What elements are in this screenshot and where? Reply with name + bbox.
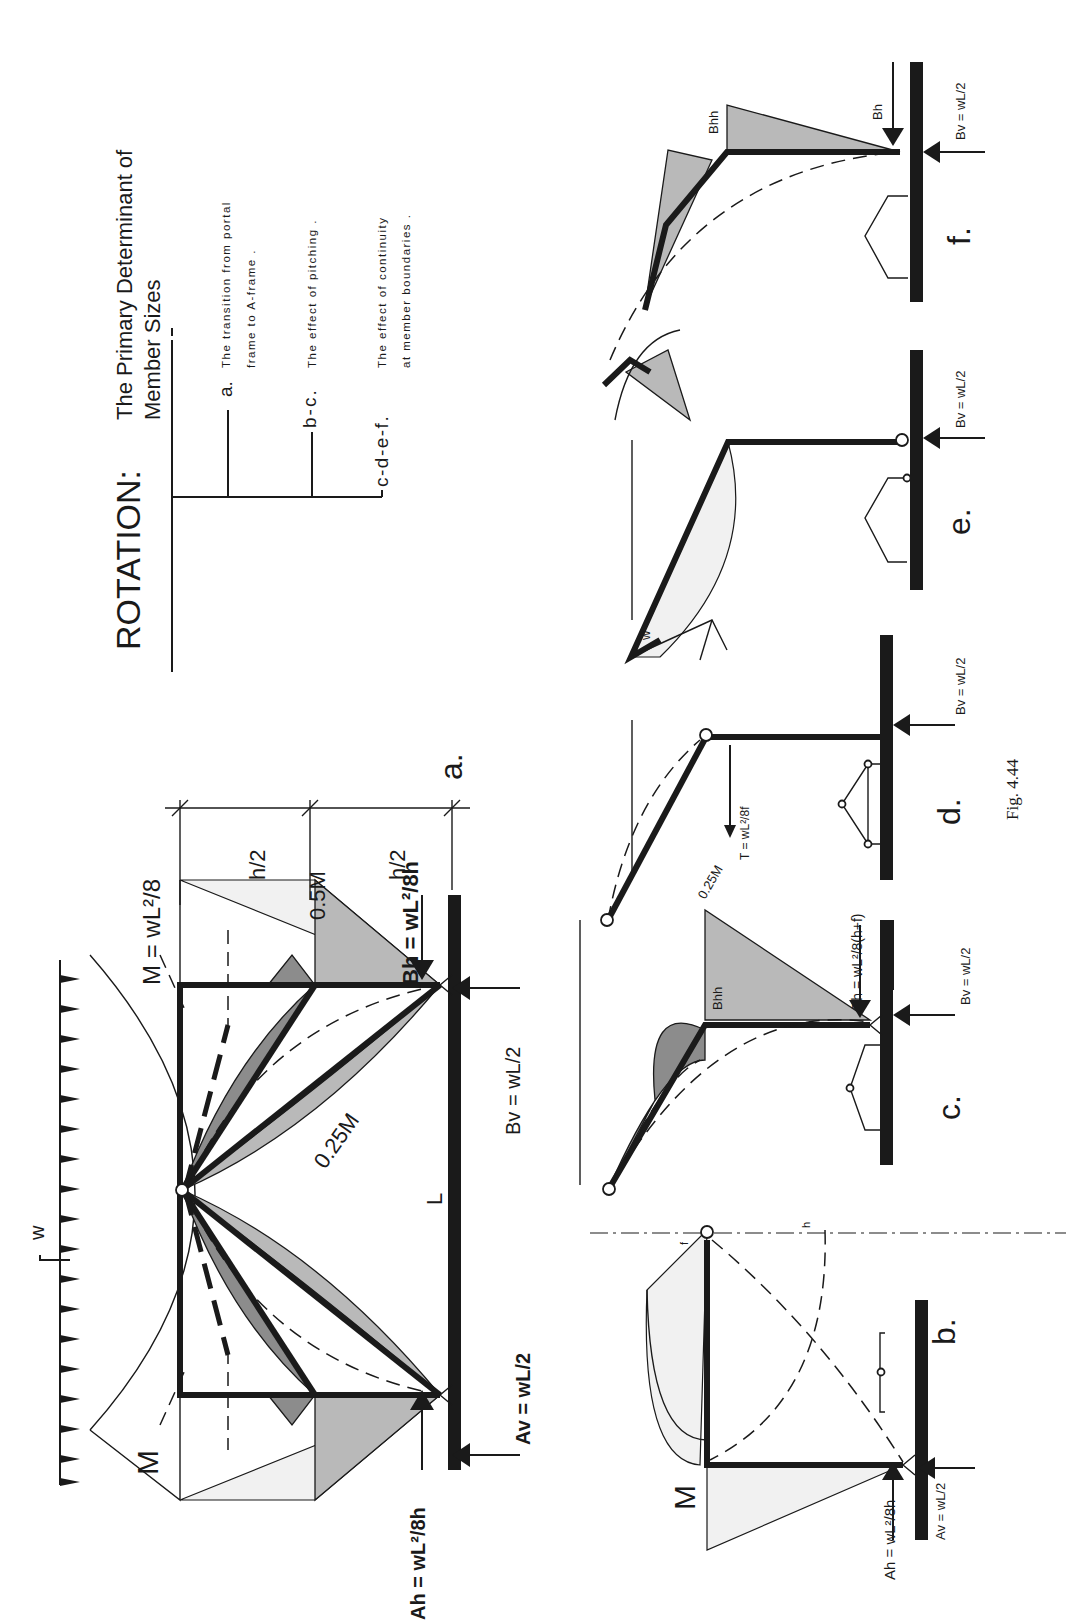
panel-b-f-label: f [678, 1241, 690, 1245]
load-label-w: w [26, 1225, 48, 1241]
panel-d-Bv-label: Bv = wL/2 [953, 658, 968, 715]
legend-item-a: a. The transition from portal frame to A… [215, 201, 257, 397]
reaction-Ah-label: Ah = wL²/8h [407, 1507, 429, 1620]
title-subtitle-line1: The Primary Determinant of [112, 149, 137, 420]
panel-b-h-label: h [800, 1222, 812, 1228]
panel-d-label: d. [931, 798, 967, 825]
panel-d-tension-label: T = wL²/8f [738, 806, 752, 860]
panel-b-Ah-label: Ah = wL²/8h [881, 1500, 898, 1580]
panel-c-Bhh-label: Bhh [710, 987, 725, 1010]
moment-formula: M = wL²/8 [138, 879, 165, 985]
panel-f-Bv-label: Bv = wL/2 [953, 83, 968, 140]
legend-key-cdef: c-d-e-f. [371, 415, 392, 487]
panel-e-label: e. [941, 508, 977, 535]
panel-c-label: c. [931, 1095, 967, 1120]
legend-item-bc: b-c. The effect of pitching . [299, 219, 320, 428]
panel-a-portal-to-a-frame: w [26, 753, 534, 1620]
panel-e-continuous: w Bv = wL/2 e. [631, 350, 985, 660]
label-0-25M: 0.25M [309, 1108, 365, 1172]
panel-f-Bhh-label: Bhh [706, 111, 721, 134]
legend-bracket [172, 325, 382, 672]
moment-label-M: M [131, 1450, 164, 1475]
figure-4-44-rotation-diagram: ROTATION: The Primary Determinant of Mem… [0, 0, 1066, 1623]
panel-b-moment-M: M [668, 1485, 701, 1510]
ground-bar-e [910, 350, 923, 590]
panel-f-label: f. [941, 227, 977, 245]
title-subtitle-line2: Member Sizes [140, 279, 165, 420]
panel-e-Bv-label: Bv = wL/2 [953, 371, 968, 428]
panel-c-Bh-label: Bh = wL²/8(h+f) [849, 914, 865, 1011]
span-label-L: L [422, 1193, 447, 1205]
legend-text-a2: frame to A-frame . [245, 249, 257, 368]
legend-text-cdef2: at member boundaries . [400, 214, 412, 368]
panel-d-0-25M-label: 0.25M [695, 863, 726, 902]
panel-a-label: a. [433, 753, 469, 780]
ground-bar-d [880, 635, 893, 880]
panel-c-pitched-hinged: Bhh Bh = wL²/8(h+f) Bv = wL/2 c. [580, 910, 973, 1195]
reaction-Bh-label: Bh = wL²/8h [398, 861, 423, 985]
legend-key-a: a. [215, 381, 236, 397]
reaction-Av-label: Av = wL/2 [512, 1353, 534, 1445]
panel-c-Bv-label: Bv = wL/2 [958, 948, 973, 1005]
panel-e-w-label: w [638, 630, 653, 641]
panel-f-Bh-label: Bh [870, 104, 885, 120]
title-heading: ROTATION: [109, 470, 147, 650]
panel-b-pitched: M f h Ah = wL²/8h Av = wL/2 b. [590, 1222, 1066, 1580]
crown-hinge [176, 1184, 188, 1196]
distributed-load-w: w [26, 960, 80, 1486]
title-block: ROTATION: The Primary Determinant of Mem… [109, 149, 412, 672]
reaction-Bv-label: Bv = wL/2 [502, 1047, 524, 1135]
ground-bar-a [448, 895, 461, 1470]
dim-label-h2-top: h/2 [245, 849, 270, 880]
reaction-Av-arrow [452, 1443, 520, 1467]
reaction-Bv-arrow [452, 976, 520, 1000]
legend-text-a1: The transition from portal [220, 201, 232, 368]
label-0-5M: 0.5M [305, 871, 330, 920]
legend-text-cdef1: The effect of continuity [376, 217, 388, 369]
legend-text-bc: The effect of pitching . [306, 219, 318, 368]
panel-b-Av-label: Av = wL/2 [933, 1483, 948, 1540]
ground-bar-f [910, 62, 923, 302]
panel-f-rigid-knee: Bhh Bh Bv = wL/2 f. [604, 62, 985, 420]
ground-bar-c [880, 920, 893, 1165]
figure-caption: Fig. 4.44 [1003, 759, 1022, 820]
panel-b-label: b. [926, 1318, 962, 1345]
legend-item-cdef: c-d-e-f. The effect of continuity at mem… [371, 214, 412, 487]
panel-d-tied: 0.25M T = wL²/8f Bv = wL/2 d. [601, 635, 968, 926]
legend-key-bc: b-c. [299, 388, 320, 428]
